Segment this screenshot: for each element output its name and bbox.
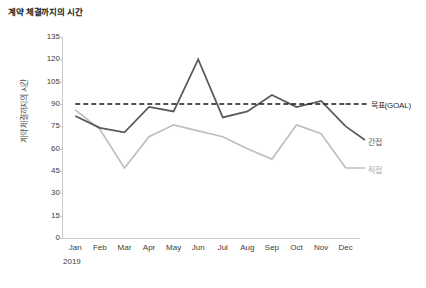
y-axis-label: 계약 체결까지의 시간 [18,79,29,143]
x-axis-tick-label: May [166,243,181,252]
x-axis-tick-label: Mar [118,243,132,252]
legend-item-goal: 목표(GOAL) [371,99,411,110]
x-axis-tick-label: Jun [192,243,205,252]
x-axis-tick-labels: JanFebMarAprMayJunJulAugSepOctNovDec [63,243,358,257]
x-axis-tick-label: Dec [339,243,353,252]
x-axis-tick-label: Sep [265,243,279,252]
figure-caption [0,277,426,288]
x-axis-tick-label: Jul [218,243,228,252]
series-svg [63,37,358,238]
legend-item-indirect: 간접 [368,136,382,147]
y-axis-label-wrapper: 계약 체결까지의 시간 [16,30,32,145]
y-axis-tickmark [57,37,62,38]
y-axis-tickmark [57,238,62,239]
legend-item-direct: 직접 [368,164,382,175]
x-axis-tick-label: Feb [93,243,107,252]
y-axis-tick-labels: 1351201059075604530150 [32,0,60,288]
x-axis-line [62,238,360,239]
x-axis-tick-label: Nov [314,243,328,252]
plot-area [63,37,358,238]
x-axis-tick-label: Aug [240,243,254,252]
x-axis-year-label: 2019 [63,257,81,266]
y-axis-tickmark [57,126,62,127]
y-axis-tickmark [57,149,62,150]
x-axis-tick-label: Jan [69,243,82,252]
y-axis-tickmark [57,216,62,217]
y-axis-tickmark [57,171,62,172]
series-line-direct [75,110,345,168]
legend-leader-indirect [346,126,365,140]
series-line-indirect [75,59,345,132]
chart-container: 계약 체결까지의 시간 계약 체결까지의 시간 1351201059075604… [0,0,426,288]
y-axis-tickmark [57,193,62,194]
x-axis-tick-label: Apr [143,243,155,252]
y-axis-tickmark [57,59,62,60]
x-axis-tick-label: Oct [290,243,302,252]
y-axis-tickmark [57,82,62,83]
y-axis-tickmark [57,104,62,105]
